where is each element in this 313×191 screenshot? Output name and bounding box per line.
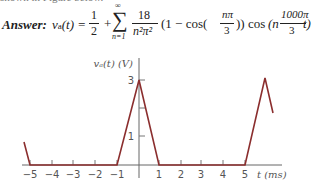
signal-line: [24, 78, 273, 165]
svg-text:5: 5: [242, 169, 248, 180]
signal-plot: −5 −4 −3 −2 −1 1 2 3 4 5 1 3 t (ms) vₐ(t…: [0, 0, 313, 191]
svg-text:1: 1: [156, 169, 162, 180]
svg-text:−4: −4: [45, 169, 60, 180]
x-axis-title: t (ms): [257, 169, 287, 180]
x-tick-labels: −5 −4 −3 −2 −1 1 2 3 4 5: [23, 169, 249, 180]
svg-text:−2: −2: [88, 169, 103, 180]
svg-text:2: 2: [178, 169, 184, 180]
svg-text:−1: −1: [110, 169, 125, 180]
svg-text:−3: −3: [66, 169, 81, 180]
svg-text:3: 3: [198, 169, 204, 180]
y-ticks: [139, 80, 145, 136]
y-tick-label-3: 3: [128, 75, 134, 86]
svg-text:−5: −5: [23, 169, 38, 180]
y-tick-label-1: 1: [128, 131, 134, 142]
y-axis-title: vₐ(t) (V): [94, 58, 134, 69]
svg-text:4: 4: [220, 169, 226, 180]
